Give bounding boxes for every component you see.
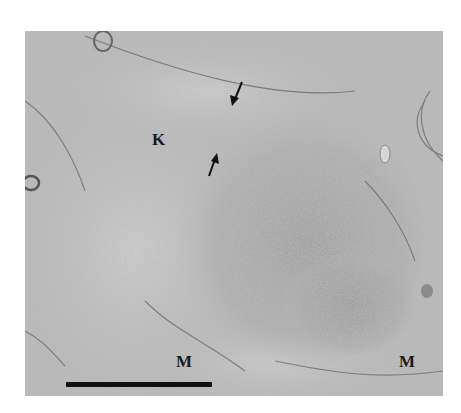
arrow-lower-icon [209, 153, 219, 176]
micrograph-image: K M M [25, 31, 443, 396]
label-m-right: M [399, 353, 415, 370]
arrow-annotations [25, 31, 443, 396]
label-k: K [152, 131, 165, 148]
scale-bar [66, 382, 212, 387]
label-m-left: M [176, 353, 192, 370]
arrow-upper-icon [230, 82, 242, 106]
